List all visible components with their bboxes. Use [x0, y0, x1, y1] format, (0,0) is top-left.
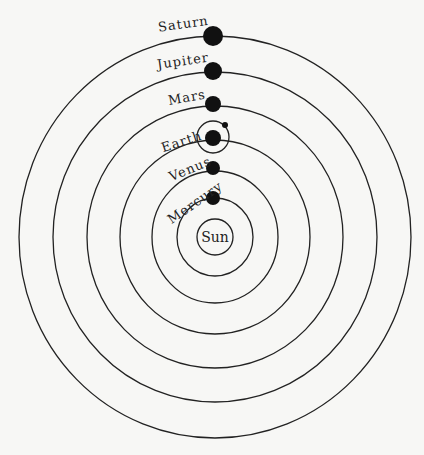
planet-mars [205, 96, 221, 112]
planet-earth [205, 130, 221, 146]
heliocentric-diagram: Sun Saturn Jupiter Mars Earth Venus Merc… [0, 0, 424, 455]
label-jupiter: Jupiter [154, 50, 210, 72]
label-saturn: Saturn [157, 13, 209, 35]
label-earth: Earth [159, 128, 204, 155]
moon [222, 122, 228, 128]
label-mars: Mars [167, 86, 207, 107]
planet-saturn [203, 26, 223, 46]
label-venus: Venus [166, 153, 214, 184]
sun-label: Sun [201, 229, 229, 245]
